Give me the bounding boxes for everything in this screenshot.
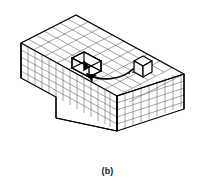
left-face-grid	[21, 43, 117, 127]
right-face-outline	[117, 74, 184, 131]
figure-caption: (b)	[0, 166, 215, 176]
front-step-edge	[56, 97, 117, 131]
front-face-outline	[21, 43, 117, 131]
detached-unit-cube	[134, 56, 152, 77]
figure-container: (b)	[0, 0, 215, 194]
isometric-block-illustration	[0, 0, 215, 194]
right-face-grid	[117, 72, 184, 131]
